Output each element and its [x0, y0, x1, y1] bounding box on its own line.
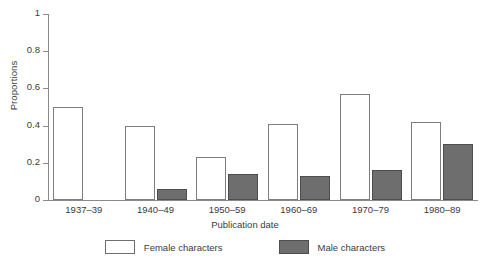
bar-female-1970-79 [340, 94, 370, 200]
bar-male-1960-69 [300, 176, 330, 200]
y-tick-label: 0.2 [27, 156, 40, 167]
legend-item-male: Male characters [279, 240, 386, 254]
y-tick-label: 0.8 [27, 44, 40, 55]
x-axis-line [48, 200, 478, 201]
bar-male-1940-49 [157, 189, 187, 200]
bar-male-1970-79 [372, 170, 402, 200]
x-tick-label: 1940–49 [137, 204, 174, 215]
chart-legend: Female charactersMale characters [0, 240, 490, 254]
bar-male-1950-59 [228, 174, 258, 200]
bar-female-1940-49 [125, 126, 155, 200]
chart-figure: Proportions 00.20.40.60.81 1937–391940–4… [0, 0, 490, 264]
legend-label: Female characters [144, 242, 223, 253]
legend-item-female: Female characters [105, 240, 223, 254]
plot-area: 00.20.40.60.81 [48, 14, 478, 200]
legend-swatch-icon [105, 240, 135, 254]
bar-female-1950-59 [196, 157, 226, 200]
y-tick-label: 0 [35, 193, 40, 204]
y-tick-label: 0.6 [27, 81, 40, 92]
y-tick-label: 0.4 [27, 119, 40, 130]
legend-swatch-icon [279, 240, 309, 254]
x-axis-tick-labels: 1937–391940–491950–591960–691970–791980–… [48, 204, 478, 220]
bar-series-group [48, 14, 478, 200]
y-tick: 0 [43, 200, 48, 201]
x-tick-label: 1960–69 [280, 204, 317, 215]
y-tick-label: 1 [35, 7, 40, 18]
legend-label: Male characters [318, 242, 386, 253]
y-axis-title: Proportions [8, 36, 19, 136]
x-tick-label: 1937–39 [65, 204, 102, 215]
bar-male-1980-89 [443, 144, 473, 200]
bar-female-1960-69 [268, 124, 298, 200]
bar-female-1980-89 [411, 122, 441, 200]
bar-female-1937-39 [53, 107, 83, 200]
x-tick-label: 1980–89 [424, 204, 461, 215]
x-tick-label: 1950–59 [209, 204, 246, 215]
x-tick-label: 1970–79 [352, 204, 389, 215]
x-axis-title: Publication date [0, 219, 490, 230]
